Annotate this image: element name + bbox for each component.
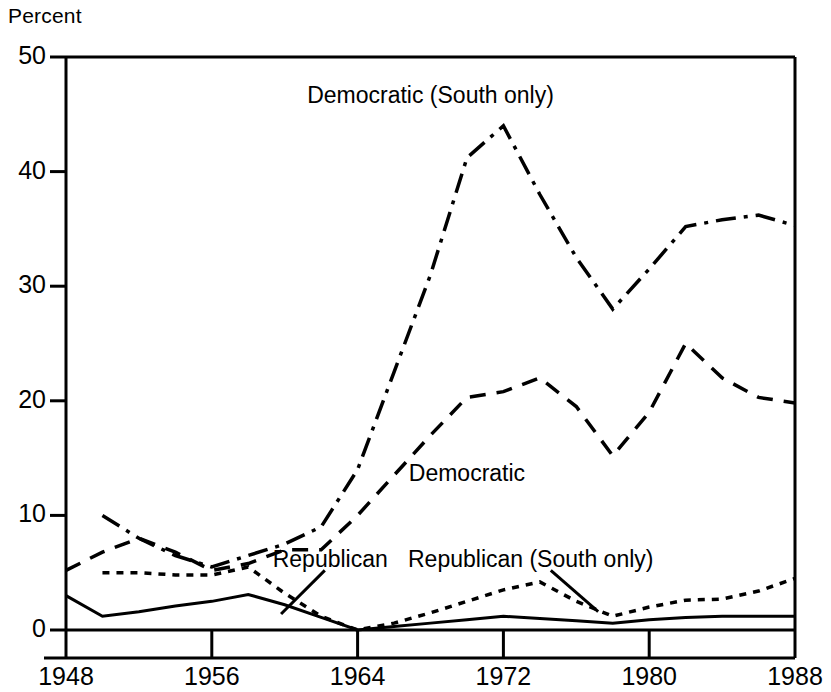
y-tick-label: 40 <box>0 156 46 185</box>
series-line-democratic-south-only <box>102 126 795 567</box>
series-label-republican: Republican <box>273 546 388 573</box>
x-tick-label: 1972 <box>448 662 558 691</box>
series-label-republican-south-only: Republican (South only) <box>408 546 653 573</box>
y-tick-label: 10 <box>0 499 46 528</box>
series-line-democratic <box>66 344 795 571</box>
y-tick-label: 30 <box>0 270 46 299</box>
chart-container: Percent 01020304050 19481956196419721980… <box>0 0 831 692</box>
x-tick-label: 1956 <box>157 662 267 691</box>
series-label-democratic-south-only: Democratic (South only) <box>307 82 554 109</box>
series-label-democratic: Democratic <box>409 460 525 487</box>
x-tick-label: 1988 <box>740 662 831 691</box>
y-tick-label: 0 <box>0 614 46 643</box>
x-tick-label: 1980 <box>594 662 704 691</box>
leader-line-republican <box>281 570 325 614</box>
y-tick-label: 20 <box>0 385 46 414</box>
y-tick-label: 50 <box>0 41 46 70</box>
x-tick-label: 1964 <box>303 662 413 691</box>
x-tick-label: 1948 <box>11 662 121 691</box>
